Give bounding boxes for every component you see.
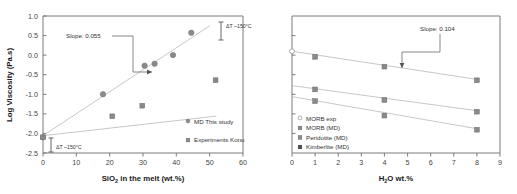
left-delta-t-label-bottom: ΔT ~150°C	[56, 144, 82, 150]
right-chart-panel: 0 1 2 3 4 5 6 7 8 9 H2O wt.%	[262, 0, 517, 194]
x-tick-label: 20	[106, 158, 114, 167]
legend-marker-md	[186, 119, 190, 123]
x-tick-label: 4	[382, 158, 386, 167]
y-tick-label: 1.0	[28, 12, 38, 21]
x-tick-label: 9	[498, 158, 502, 167]
y-tick-label: 0.5	[28, 31, 38, 40]
right-x-axis-title: H2O wt.%	[379, 174, 414, 184]
x-tick-label: 7	[452, 158, 456, 167]
right-series-peridotite-md-points	[313, 87, 480, 114]
x-tick-label: 0	[290, 158, 294, 167]
legend-label-morb-exp: MORB exp	[306, 115, 337, 122]
left-delta-t-label-top: ΔT ~150°C	[226, 23, 252, 29]
x-tick-label: 8	[475, 158, 479, 167]
left-series-kono-points	[41, 78, 218, 140]
left-delta-t-bracket-bottom	[49, 138, 54, 152]
right-series-morb-exp-point	[290, 49, 295, 54]
svg-text:SiO2 in the melt (wt.%): SiO2 in the melt (wt.%)	[102, 174, 185, 184]
x-tick-label: 1	[313, 158, 317, 167]
y-tick-label: -2.5	[26, 149, 38, 158]
x-tick-label: 50	[206, 158, 214, 167]
x-axis-title-rest: in the melt (wt.%)	[118, 174, 185, 183]
figure-container: 1.0 0.5 0.0 -0.5 -1.0 -1.5 -2.0 -2.5	[0, 0, 517, 194]
x-tick-label: 0	[41, 158, 45, 167]
left-trendline-md	[43, 26, 210, 136]
y-tick-label: 0.0	[28, 51, 38, 60]
x-tick-label: 10	[72, 158, 80, 167]
legend-marker-kimberlite-md	[298, 145, 302, 149]
right-x-tick-labels: 0 1 2 3 4 5 6 7 8 9	[290, 158, 502, 167]
y-tick-label: -2.0	[26, 129, 38, 138]
y-tick-label: -1.0	[26, 90, 38, 99]
left-series-md-points	[40, 30, 194, 140]
x-tick-label: 30	[139, 158, 147, 167]
right-chart-svg: 0 1 2 3 4 5 6 7 8 9 H2O wt.%	[262, 0, 517, 194]
x-tick-label: 2	[336, 158, 340, 167]
left-x-ticks	[43, 153, 243, 157]
left-chart-panel: 1.0 0.5 0.0 -0.5 -1.0 -1.5 -2.0 -2.5	[0, 0, 262, 194]
legend-marker-kono	[186, 138, 190, 142]
right-axes	[292, 16, 500, 153]
right-x-ticks	[292, 153, 500, 157]
x-tick-label: 3	[359, 158, 363, 167]
svg-text:H2O wt.%: H2O wt.%	[379, 174, 414, 184]
left-chart-svg: 1.0 0.5 0.0 -0.5 -1.0 -1.5 -2.0 -2.5	[0, 0, 262, 194]
x-axis-title-rest: O wt.%	[387, 174, 413, 183]
x-tick-label: 6	[429, 158, 433, 167]
left-delta-t-bracket-top	[219, 22, 224, 40]
left-y-tick-labels: 1.0 0.5 0.0 -0.5 -1.0 -1.5 -2.0 -2.5	[26, 12, 38, 158]
legend-label-md: MD This study	[194, 118, 234, 125]
legend-label-morb-md: MORB (MD)	[306, 124, 340, 131]
left-slope-arrowhead	[147, 70, 152, 75]
y-tick-label: -1.5	[26, 109, 38, 118]
legend-marker-morb-md	[298, 126, 302, 130]
legend-marker-peridotite-md	[298, 136, 302, 140]
left-legend: MD This study Experiments Kono	[186, 118, 245, 144]
x-tick-label: 5	[406, 158, 410, 167]
right-slope-arrowhead	[400, 63, 405, 68]
right-slope-leader	[402, 34, 440, 68]
legend-label-kono: Experiments Kono	[194, 136, 245, 143]
y-tick-label: -0.5	[26, 70, 38, 79]
x-tick-label: 60	[239, 158, 247, 167]
left-x-tick-labels: 0 10 20 30 40 50 60	[41, 158, 247, 167]
right-slope-label: Slope: 0.104	[420, 25, 455, 32]
right-series-morb-md-points	[313, 54, 480, 82]
left-y-axis-title: Log Viscosity (Pa.s)	[5, 48, 14, 122]
left-slope-label: Slope: 0.055	[66, 32, 101, 39]
x-tick-label: 40	[172, 158, 180, 167]
legend-label-kimberlite-md: Kimberlite (MD)	[306, 143, 349, 150]
right-legend: MORB exp MORB (MD) Peridotite (MD) Kimbe…	[298, 115, 349, 151]
x-axis-title-main: SiO	[102, 174, 115, 183]
left-x-axis-title: SiO2 in the melt (wt.%)	[102, 174, 185, 184]
left-y-ticks	[43, 16, 47, 153]
legend-label-peridotite-md: Peridotite (MD)	[306, 134, 348, 141]
legend-marker-morb-exp	[298, 116, 302, 120]
